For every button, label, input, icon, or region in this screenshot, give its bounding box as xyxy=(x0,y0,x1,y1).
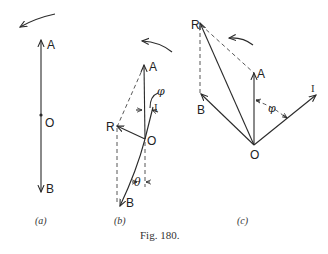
label-B-a: B xyxy=(46,182,54,196)
vector-OR-c xyxy=(200,23,254,145)
label-B-b: B xyxy=(126,196,134,210)
panel-b: A R O B φ I θ (b) xyxy=(106,41,172,227)
vector-OA-b xyxy=(144,65,145,139)
vector-OR-b xyxy=(117,126,145,139)
label-A-c: A xyxy=(257,67,265,81)
panel-a: A O B (a) xyxy=(20,14,55,227)
origin-point-a xyxy=(39,113,42,116)
label-R-b: R xyxy=(106,120,115,134)
label-B-c: B xyxy=(197,103,205,117)
label-I-b: I xyxy=(154,101,158,113)
phi-arc-arrow-end-c xyxy=(283,115,287,118)
panel-c: R A B O I φ (c) xyxy=(191,18,316,227)
label-A-a: A xyxy=(47,38,55,52)
caption-a: (a) xyxy=(35,215,47,227)
dashed-R-to-A-c xyxy=(201,25,254,73)
caption-b: (b) xyxy=(114,215,126,227)
rotation-arrow-c xyxy=(229,38,253,45)
label-O-c: O xyxy=(250,148,259,162)
rotation-arrow-a xyxy=(20,14,55,27)
label-A-b: A xyxy=(149,60,157,74)
rotation-arrow-b xyxy=(142,41,172,52)
label-O-b: O xyxy=(147,134,156,148)
label-I-c: I xyxy=(311,82,315,94)
vector-OI-c xyxy=(254,95,316,145)
figure-caption: Fig. 180. xyxy=(140,229,180,241)
label-phi-b: φ xyxy=(157,85,165,98)
label-theta-b: θ xyxy=(134,176,141,189)
phasor-diagram-figure: A O B (a) A R O B φ I θ (b) xyxy=(0,0,328,254)
label-O-a: O xyxy=(45,116,54,130)
dashed-R-to-A-b xyxy=(117,68,143,127)
label-phi-c: φ xyxy=(268,102,276,115)
caption-c: (c) xyxy=(237,215,249,227)
label-R-c: R xyxy=(191,18,200,32)
vector-OB-c xyxy=(201,94,254,145)
